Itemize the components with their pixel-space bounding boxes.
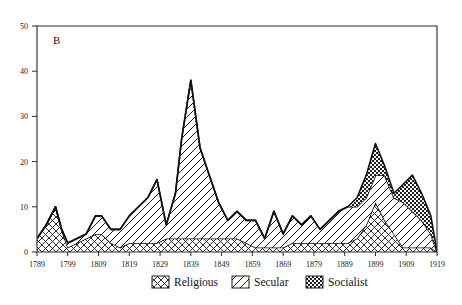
y-tick-label: 10 bbox=[20, 203, 28, 212]
x-tick-label: 1839 bbox=[183, 260, 199, 269]
legend-swatch-socialist bbox=[306, 276, 323, 288]
y-tick-label: 0 bbox=[24, 248, 28, 257]
chart-figure: 01020304050 1789179918091819182918391849… bbox=[0, 0, 462, 305]
x-tick-label: 1859 bbox=[244, 260, 260, 269]
x-tick-label: 1909 bbox=[398, 260, 414, 269]
x-tick-label: 1799 bbox=[60, 260, 76, 269]
legend-item-socialist: Socialist bbox=[306, 276, 368, 288]
x-tick-label: 1899 bbox=[367, 260, 383, 269]
x-tick-label: 1789 bbox=[29, 260, 45, 269]
y-tick-label: 30 bbox=[20, 112, 28, 121]
chart-legend: Religious Secular Socialist bbox=[152, 276, 368, 289]
legend-label-secular: Secular bbox=[254, 276, 289, 288]
y-tick-label: 50 bbox=[20, 22, 28, 31]
legend-swatch-religious bbox=[152, 276, 169, 288]
x-tick-label: 1829 bbox=[152, 260, 168, 269]
x-tick-label: 1819 bbox=[121, 260, 137, 269]
legend-item-secular: Secular bbox=[232, 276, 289, 288]
legend-label-religious: Religious bbox=[174, 276, 219, 289]
legend-swatch-secular bbox=[232, 276, 249, 288]
x-tick-label: 1889 bbox=[337, 260, 353, 269]
x-tick-label: 1849 bbox=[214, 260, 230, 269]
legend-item-religious: Religious bbox=[152, 276, 219, 289]
x-tick-label: 1869 bbox=[275, 260, 291, 269]
y-tick-label: 20 bbox=[20, 158, 28, 167]
legend-label-socialist: Socialist bbox=[328, 276, 368, 288]
panel-label: B bbox=[53, 34, 60, 46]
y-tick-label: 40 bbox=[20, 67, 28, 76]
x-tick-label: 1809 bbox=[91, 260, 107, 269]
x-tick-label: 1919 bbox=[429, 260, 445, 269]
x-tick-label: 1879 bbox=[306, 260, 322, 269]
